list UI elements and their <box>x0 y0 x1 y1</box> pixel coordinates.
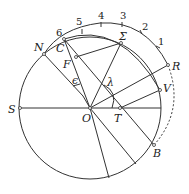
tick-label-1: 1 <box>158 36 164 47</box>
label-T: T <box>114 112 123 125</box>
point-V <box>159 89 162 92</box>
label-S: S <box>8 103 16 116</box>
tick-label-6: 6 <box>56 27 62 38</box>
dashed-arc <box>154 65 174 145</box>
point-R <box>167 64 170 67</box>
line-T-V <box>120 90 160 108</box>
line-F-Sigma <box>76 43 121 57</box>
label-N: N <box>33 41 44 54</box>
label-Sigma: Σ <box>118 30 127 43</box>
line-O-down1 <box>90 108 109 178</box>
line-O-R <box>90 65 168 108</box>
tick-label-5: 5 <box>76 16 82 27</box>
label-C: C <box>56 42 65 55</box>
tick-label-3: 3 <box>120 10 126 21</box>
line-C-B <box>64 39 154 145</box>
point-O <box>89 107 92 110</box>
point-F <box>75 56 78 59</box>
label-R: R <box>171 60 180 73</box>
label-epsilon: ϵ <box>72 74 78 87</box>
point-T <box>119 107 122 110</box>
label-V: V <box>163 82 172 95</box>
tick-label-4: 4 <box>98 10 104 21</box>
label-B: B <box>152 147 161 160</box>
geometry-diagram: S O T N C F Σ R V B ϵ λ 1 2 3 4 5 6 <box>0 0 189 194</box>
point-S <box>19 107 22 110</box>
label-F: F <box>62 58 71 71</box>
label-lambda: λ <box>106 76 114 89</box>
tick-label-2: 2 <box>142 21 148 32</box>
point-C <box>63 38 66 41</box>
label-O: O <box>82 112 91 125</box>
